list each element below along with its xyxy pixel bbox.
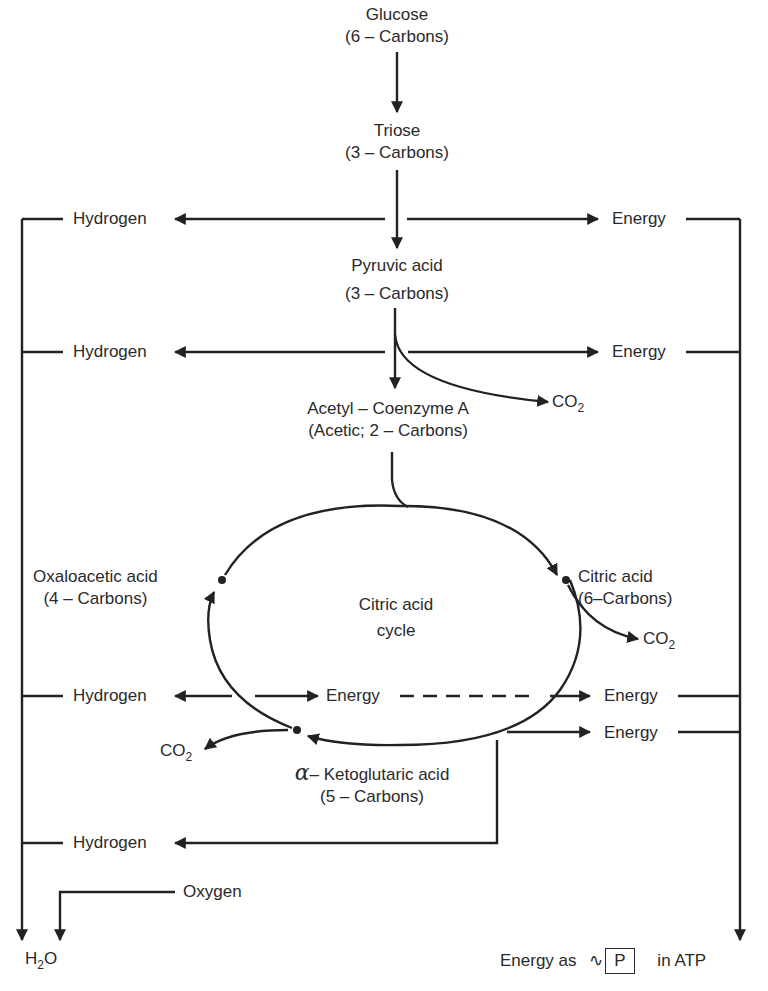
co2-text: CO <box>552 392 578 411</box>
pyruvic-name: Pyruvic acid <box>345 255 449 277</box>
triose-label: Triose (3 – Carbons) <box>345 120 449 164</box>
glucose-label: Glucose (6 – Carbons) <box>345 4 449 48</box>
atp-suffix: in ATP <box>657 951 706 970</box>
atp-prefix: Energy as <box>500 951 577 970</box>
oxaloacetic-carbons: (4 – Carbons) <box>33 588 158 610</box>
h2o-o: O <box>44 949 57 968</box>
co2-subscript: 2 <box>669 638 676 652</box>
hydrogen-label-1: Hydrogen <box>73 208 147 230</box>
cycle-line1: Citric acid <box>359 594 434 616</box>
co2-subscript: 2 <box>578 401 585 415</box>
pyruvic-label: Pyruvic acid (3 – Carbons) <box>345 255 449 305</box>
citric-label: Citric acid (6–Carbons) <box>578 566 673 610</box>
acetyl-name: Acetyl – Coenzyme A <box>307 398 469 420</box>
energy-label-5: Energy <box>604 722 658 744</box>
hydrogen-label-4: Hydrogen <box>73 832 147 854</box>
atp-energy-label: Energy as ∿P in ATP <box>500 948 706 974</box>
co2-label-1: CO2 <box>552 391 584 414</box>
co2-label-3: CO2 <box>160 740 192 763</box>
ketoglutaric-name: – Ketoglutaric acid <box>309 765 449 784</box>
oxaloacetic-name: Oxaloacetic acid <box>33 566 158 588</box>
h2o-h: H <box>25 949 37 968</box>
co2-subscript: 2 <box>186 750 193 764</box>
pyruvic-carbons: (3 – Carbons) <box>345 283 449 305</box>
oxaloacetic-label: Oxaloacetic acid (4 – Carbons) <box>33 566 158 610</box>
acetyl-label: Acetyl – Coenzyme A (Acetic; 2 – Carbons… <box>307 398 469 442</box>
cycle-label: Citric acid cycle <box>359 594 434 642</box>
co2-label-2: CO2 <box>643 628 675 651</box>
acetyl-carbons: (Acetic; 2 – Carbons) <box>307 420 469 442</box>
h2o-subscript: 2 <box>37 958 44 972</box>
water-label: H2O <box>25 948 57 971</box>
cellular-respiration-diagram: Glucose (6 – Carbons) Triose (3 – Carbon… <box>0 0 768 991</box>
phosphate-box: P <box>605 948 634 974</box>
triose-name: Triose <box>345 120 449 142</box>
glucose-carbons: (6 – Carbons) <box>345 26 449 48</box>
hydrogen-label-3: Hydrogen <box>73 685 147 707</box>
cycle-line2: cycle <box>359 620 434 642</box>
ketoglutaric-carbons: (5 – Carbons) <box>295 786 450 808</box>
tilde-bond-icon: ∿ <box>589 951 603 970</box>
energy-label-3: Energy <box>326 685 380 707</box>
co2-text: CO <box>643 629 669 648</box>
ketoglutaric-label: α– Ketoglutaric acid (5 – Carbons) <box>295 762 450 808</box>
co2-text: CO <box>160 741 186 760</box>
glucose-name: Glucose <box>345 4 449 26</box>
energy-label-1: Energy <box>612 208 666 230</box>
citric-carbons: (6–Carbons) <box>578 588 673 610</box>
energy-label-4: Energy <box>604 685 658 707</box>
hydrogen-label-2: Hydrogen <box>73 341 147 363</box>
alpha-symbol: α <box>295 760 310 785</box>
triose-carbons: (3 – Carbons) <box>345 142 449 164</box>
energy-label-2: Energy <box>612 341 666 363</box>
citric-name: Citric acid <box>578 566 673 588</box>
oxygen-label: Oxygen <box>183 881 242 903</box>
